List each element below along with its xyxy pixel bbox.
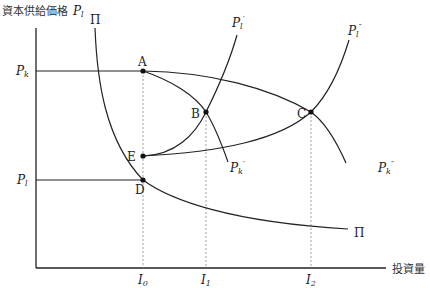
label-e: E bbox=[127, 150, 136, 164]
point-b bbox=[203, 109, 208, 114]
y-axis-title: 資本供給価格 bbox=[2, 4, 68, 18]
pi-curve-end-label: Π bbox=[354, 226, 364, 240]
pk-double-prime-label: Pk″ bbox=[377, 159, 394, 176]
point-d bbox=[140, 177, 145, 182]
point-c bbox=[308, 109, 313, 114]
x-axis-title: 投資量 bbox=[392, 262, 425, 276]
diagram-canvas: A B C D E 資本供給価格 Pl Pk Pl I0 I1 I2 投資量 Π… bbox=[0, 0, 430, 288]
capital-supply-price-diagram: A B C D E 資本供給価格 Pl Pk Pl I0 I1 I2 投資量 Π… bbox=[0, 0, 430, 288]
y-axis-symbol: Pl bbox=[72, 4, 84, 19]
y-tick-pk: Pk bbox=[15, 64, 29, 79]
pl-double-prime-label: Pl″ bbox=[347, 22, 362, 39]
x-tick-i0: I0 bbox=[137, 273, 148, 288]
label-a: A bbox=[137, 55, 147, 69]
label-d: D bbox=[135, 183, 145, 197]
pl-double-prime-curve bbox=[143, 40, 349, 156]
label-c: C bbox=[297, 107, 306, 121]
pk-prime-label: Pk′ bbox=[229, 159, 245, 176]
point-a bbox=[140, 68, 145, 73]
pl-prime-label: Pl′ bbox=[231, 14, 245, 31]
y-tick-pl: Pl bbox=[16, 173, 28, 188]
x-tick-i2: I2 bbox=[305, 273, 316, 288]
pi-curve bbox=[95, 28, 348, 229]
label-b: B bbox=[191, 107, 200, 121]
pi-curve-top-label: Π bbox=[90, 13, 100, 27]
point-e bbox=[140, 153, 145, 158]
x-tick-i1: I1 bbox=[200, 273, 211, 288]
